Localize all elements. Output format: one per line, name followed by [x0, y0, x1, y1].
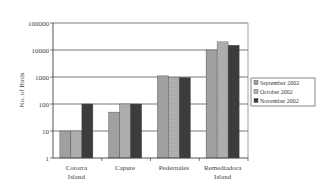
- legend-swatch: [254, 90, 258, 94]
- x-category-label: Island: [214, 173, 232, 181]
- bar: [179, 78, 190, 158]
- legend-swatch: [254, 99, 258, 103]
- bar: [60, 131, 71, 158]
- x-category-label: Remediadora: [204, 164, 242, 172]
- y-tick-labels: 110100100010000100000: [28, 20, 50, 163]
- legend-swatch: [254, 81, 258, 85]
- legend-label: October 2002: [260, 89, 293, 95]
- bar-chart: 110100100010000100000 CotorraIslandCapur…: [0, 0, 334, 193]
- bar: [157, 76, 168, 158]
- bars: [60, 42, 248, 161]
- y-tick-label: 100: [39, 101, 50, 109]
- legend-label: September 2002: [260, 80, 299, 86]
- bar: [131, 104, 142, 158]
- bar: [82, 104, 93, 158]
- legend: September 2002October 2002November 2002: [251, 78, 315, 106]
- y-tick-label: 100000: [28, 20, 50, 28]
- x-category-label: Island: [68, 173, 86, 181]
- y-tick-label: 10000: [32, 47, 50, 55]
- bar: [206, 50, 217, 158]
- x-category-labels: CotorraIslandCapurePedernalesRemediadora…: [66, 164, 242, 181]
- x-category-label: Pedernales: [159, 164, 190, 172]
- y-tick-label: 1000: [35, 74, 50, 82]
- legend-label: November 2002: [260, 98, 299, 104]
- x-category-label: Cotorra: [66, 164, 88, 172]
- bar: [109, 112, 120, 158]
- x-category-label: Capure: [115, 164, 135, 172]
- y-axis-label: No. of Birds: [18, 72, 26, 107]
- y-tick-label: 10: [42, 128, 50, 136]
- bar: [228, 45, 239, 158]
- y-tick-label: 1: [46, 155, 50, 163]
